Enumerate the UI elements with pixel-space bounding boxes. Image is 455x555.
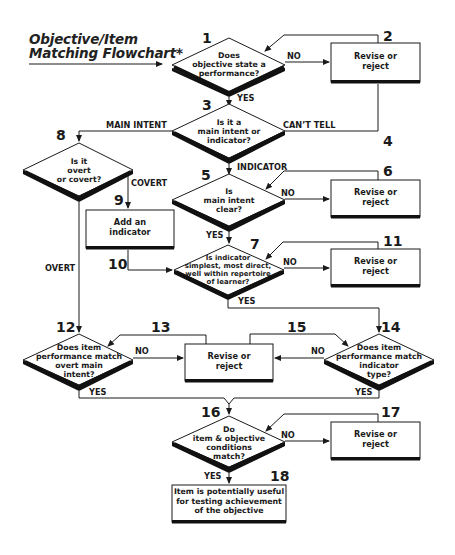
title-line-2: Matching Flowchart* <box>29 46 183 60</box>
edge-label-14-yes: YES <box>355 388 372 397</box>
node-number-13: 13 <box>151 320 170 334</box>
node-number-11: 11 <box>383 234 402 248</box>
edge-label-3-main-intent: MAIN INTENT <box>106 121 167 130</box>
decision-8-text: Is itovertor covert? <box>57 157 101 184</box>
edge-label-7-yes: YES <box>238 297 255 306</box>
edge-label-3-cant-tell: CAN’T TELL <box>283 121 335 130</box>
process-9-text: Add anindicator <box>86 210 174 248</box>
decision-3-text: Is it amain intent orindicator? <box>198 118 261 145</box>
process-11-text: Revise orreject <box>331 249 420 286</box>
edge-label-14-no: NO <box>311 347 325 356</box>
edge-label-7-no: NO <box>283 258 297 267</box>
edge-label-1-yes: YES <box>237 94 254 103</box>
node-number-1: 1 <box>202 31 212 45</box>
flowchart-title: Objective/Item Matching Flowchart* <box>29 32 183 60</box>
edge-label-8-covert: COVERT <box>131 179 167 188</box>
process-6-text: Revise orreject <box>331 180 420 217</box>
node-number-17: 17 <box>381 405 400 419</box>
edge-label-12-yes: YES <box>89 388 106 397</box>
node-number-18: 18 <box>270 469 289 483</box>
node-number-12: 12 <box>56 320 75 334</box>
decision-5-text: Ismain intentclear? <box>204 187 255 214</box>
node-number-3: 3 <box>202 98 212 112</box>
node-number-5: 5 <box>201 168 211 182</box>
process-2-text: Revise orreject <box>331 43 420 82</box>
decision-12-text: Does itemperformance matchovert maininte… <box>36 343 122 379</box>
node-number-6: 6 <box>383 164 393 178</box>
decision-1-text: Doesobjective state aperformance? <box>192 51 266 78</box>
node-number-10: 10 <box>108 257 127 271</box>
edge-label-5-yes: YES <box>206 231 223 240</box>
node-number-7: 7 <box>250 237 260 251</box>
edge-label-12-no: NO <box>135 347 149 356</box>
node-number-8: 8 <box>56 128 66 142</box>
terminal-18-text: Item is potentially usefulfor testing ac… <box>172 485 286 522</box>
edge-label-16-no: NO <box>281 431 295 440</box>
decision-14-text: Does itemperformance matchindicatortype? <box>336 343 422 379</box>
node-number-15: 15 <box>287 320 306 334</box>
edge-label-3-indicator: INDICATOR <box>237 163 287 172</box>
decision-16-text: Doitem & objectiveconditionsmatch? <box>193 425 265 461</box>
edge-label-5-no: NO <box>281 189 295 198</box>
edge-label-1-no: NO <box>287 52 301 61</box>
node-number-2: 2 <box>383 29 393 43</box>
process-17-text: Revise orreject <box>331 422 420 459</box>
node-number-16: 16 <box>201 405 220 419</box>
edge-label-8-overt: OVERT <box>45 264 75 273</box>
node-number-14: 14 <box>381 320 400 334</box>
title-line-1: Objective/Item <box>29 32 183 46</box>
decision-7-text: Is indicatorsimplest, most direct,well w… <box>185 254 271 286</box>
node-number-4: 4 <box>383 134 393 148</box>
node-number-9: 9 <box>114 193 124 207</box>
edge-label-16-yes: YES <box>204 472 221 481</box>
process-13-text: Revise orreject <box>185 344 273 381</box>
